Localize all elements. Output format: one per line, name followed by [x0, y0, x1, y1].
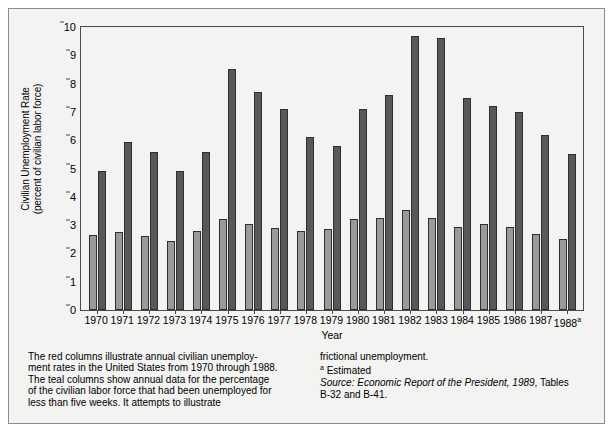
- x-axis-tick-label-1978: 1978: [292, 314, 318, 329]
- source-tables-label: , Tables: [535, 377, 569, 388]
- bar-group-1987: [528, 27, 554, 310]
- bar-1978-series-1: [297, 231, 305, 310]
- bar-groups: [81, 27, 583, 310]
- bar-group-1984: [450, 27, 476, 310]
- y-axis-label-line-2: (percent of civilian labor force): [32, 44, 44, 254]
- x-axis-tick-label-1973: 1973: [161, 314, 187, 329]
- bar-1984-series-2: [463, 98, 471, 310]
- x-axis-tick-label-1981: 1981: [371, 314, 397, 329]
- y-axis-tick-3: 3: [70, 220, 76, 231]
- bar-1985-series-2: [489, 106, 497, 310]
- source-citation: Source: Economic Report of the President…: [320, 377, 535, 388]
- y-axis-tick-mark: [66, 220, 70, 221]
- y-axis-label: Civilian Unemployment Rate (percent of c…: [20, 44, 44, 254]
- x-axis-tick-label-1980: 1980: [345, 314, 371, 329]
- bar-1983-series-2: [437, 38, 445, 310]
- bar-1977-series-2: [280, 109, 288, 310]
- x-axis-tick-label-1974: 1974: [188, 314, 214, 329]
- figure-container: Civilian Unemployment Rate (percent of c…: [8, 8, 605, 424]
- bar-1988-series-2: [568, 154, 576, 310]
- bar-group-1983: [423, 27, 449, 310]
- caption-source-line-1: Source: Economic Report of the President…: [320, 377, 588, 388]
- caption: The red columns illustrate annual civili…: [28, 351, 588, 408]
- caption-left-line-2: ment rates in the United States from 197…: [28, 362, 306, 373]
- bar-1976-series-1: [245, 224, 253, 310]
- x-axis-tick-labels: 1970197119721973197419751976197719781979…: [80, 314, 584, 329]
- caption-source-line-2: B-32 and B-41.: [320, 389, 588, 400]
- y-axis-tick-mark: [66, 191, 70, 192]
- bar-1976-series-2: [254, 92, 262, 310]
- bar-group-1978: [293, 27, 319, 310]
- bar-group-1972: [136, 27, 162, 310]
- bar-1980-series-1: [350, 219, 358, 310]
- bar-group-1971: [110, 27, 136, 310]
- bar-1974-series-1: [193, 231, 201, 310]
- x-axis-tick-label-1975: 1975: [214, 314, 240, 329]
- bar-1982-series-1: [402, 210, 410, 310]
- x-axis-tick-label-1986: 1986: [502, 314, 528, 329]
- bar-1982-series-2: [411, 36, 419, 311]
- x-axis-tick-label-1983: 1983: [423, 314, 449, 329]
- y-axis-tick-7: 7: [70, 106, 76, 117]
- y-axis-tick-8: 8: [70, 78, 76, 89]
- bar-group-1975: [215, 27, 241, 310]
- y-axis-tick-0: 0: [70, 305, 76, 316]
- footnote-text: Estimated: [324, 366, 371, 377]
- x-axis-tick-label-1988: 1988a: [554, 314, 581, 329]
- bar-group-1988: [554, 27, 580, 310]
- bar-1986-series-2: [515, 112, 523, 310]
- bar-1971-series-1: [115, 232, 123, 310]
- y-axis-tick-mark: [66, 248, 70, 249]
- x-axis-tick-label-1985: 1985: [475, 314, 501, 329]
- bar-1971-series-2: [124, 142, 132, 310]
- x-axis-label: Year: [80, 329, 584, 341]
- bar-1979-series-2: [333, 146, 341, 310]
- bar-1978-series-2: [306, 137, 314, 310]
- caption-right-column: frictional unemployment. a Estimated Sou…: [320, 351, 588, 408]
- caption-left-line-5: less than five weeks. It attempts to ill…: [28, 397, 306, 408]
- x-axis-tick-label-1971: 1971: [109, 314, 135, 329]
- y-axis-label-line-1: Civilian Unemployment Rate: [20, 44, 32, 254]
- y-axis-tick-mark: [66, 163, 70, 164]
- bar-1983-series-1: [428, 218, 436, 310]
- bar-group-1980: [345, 27, 371, 310]
- bar-1981-series-2: [385, 95, 393, 310]
- x-axis-tick-label-1979: 1979: [318, 314, 344, 329]
- bar-group-1986: [502, 27, 528, 310]
- x-axis-tick-label-1987: 1987: [528, 314, 554, 329]
- x-axis-tick-label-1982: 1982: [397, 314, 423, 329]
- y-axis-tick-5: 5: [70, 163, 76, 174]
- bar-group-1977: [267, 27, 293, 310]
- x-axis-tick-label-1984: 1984: [449, 314, 475, 329]
- bar-1984-series-1: [454, 227, 462, 310]
- caption-left-line-1: The red columns illustrate annual civili…: [28, 351, 306, 362]
- y-axis-tick-10: 10: [64, 22, 76, 33]
- bar-group-1974: [188, 27, 214, 310]
- x-axis-tick-label-1976: 1976: [240, 314, 266, 329]
- y-axis-tick-mark: [66, 78, 70, 79]
- y-axis-tick-mark: [66, 135, 70, 136]
- x-axis-tick-footnote-marker: a: [577, 316, 581, 323]
- y-axis-tick-2: 2: [70, 248, 76, 259]
- y-axis-tick-4: 4: [70, 191, 76, 202]
- bar-1985-series-1: [480, 224, 488, 310]
- bar-group-1979: [319, 27, 345, 310]
- y-axis-tick-6: 6: [70, 135, 76, 146]
- bar-1988-series-1: [559, 239, 567, 310]
- x-axis-tick-label-1977: 1977: [266, 314, 292, 329]
- bar-1974-series-2: [202, 152, 210, 310]
- bar-1975-series-1: [219, 219, 227, 310]
- y-axis-tick-9: 9: [70, 50, 76, 61]
- bar-1979-series-1: [324, 229, 332, 310]
- caption-left-line-3: The teal columns show annual data for th…: [28, 374, 306, 385]
- bar-1986-series-1: [506, 227, 514, 310]
- y-axis-tick-mark: [60, 22, 64, 23]
- bar-1975-series-2: [228, 69, 236, 310]
- y-axis-tick-mark: [66, 276, 70, 277]
- bar-1970-series-1: [89, 235, 97, 310]
- y-axis-tick-mark: [66, 305, 70, 306]
- bar-1973-series-1: [167, 241, 175, 310]
- caption-frictional-line: frictional unemployment.: [320, 351, 588, 362]
- bar-group-1985: [476, 27, 502, 310]
- x-axis-tick-label-1970: 1970: [83, 314, 109, 329]
